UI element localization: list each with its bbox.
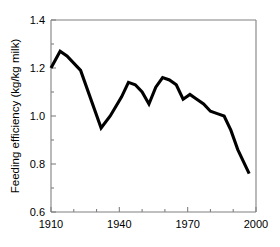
x-tick-labels-group: 1910194019702000 (39, 218, 268, 230)
y-tick-labels-group: 0.60.81.01.21.4 (30, 14, 45, 218)
x-tick-label: 1940 (107, 218, 131, 230)
x-tick-label: 2000 (244, 218, 268, 230)
x-tick-label: 1970 (175, 218, 199, 230)
y-tick-label: 1.2 (30, 62, 45, 74)
y-axis-title: Feeding efficiency (kg/kg milk) (9, 39, 21, 194)
x-tick-label: 1910 (39, 218, 63, 230)
y-tick-label: 1.0 (30, 110, 45, 122)
y-tick-label: 1.4 (30, 14, 45, 26)
y-tick-label: 0.6 (30, 206, 45, 218)
figure-container: 1910194019702000 0.60.81.01.21.4 Feeding… (0, 0, 280, 247)
line-chart: 1910194019702000 0.60.81.01.21.4 Feeding… (0, 0, 280, 247)
y-tick-label: 0.8 (30, 158, 45, 170)
